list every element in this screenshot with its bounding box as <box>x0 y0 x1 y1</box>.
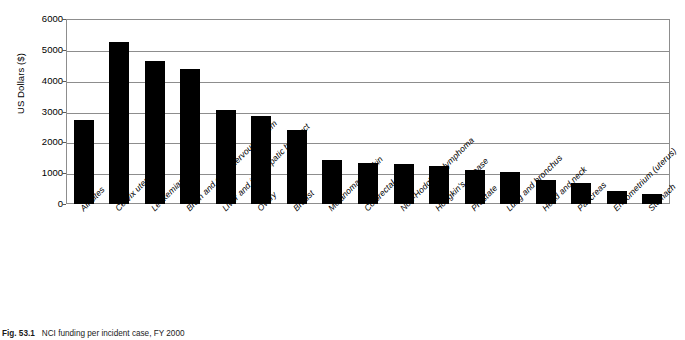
y-axis-tick-label: 6000 <box>3 14 63 24</box>
figure-caption: Fig. 53.1NCI funding per incident case, … <box>2 329 185 338</box>
figure-container: US Dollars ($) 0100020003000400050006000… <box>0 0 685 340</box>
figure-caption-text: NCI funding per incident case, FY 2000 <box>42 329 185 338</box>
y-axis-tick-label: 2000 <box>3 137 63 147</box>
figure-number: Fig. 53.1 <box>2 329 35 338</box>
y-axis-tick-label: 4000 <box>3 76 63 86</box>
y-axis-tick-label: 3000 <box>3 107 63 117</box>
x-axis-category-labels: All sitesCervix uteriLeukemiasBrain and … <box>66 206 670 326</box>
y-axis-tick-label: 5000 <box>3 45 63 55</box>
bar <box>109 42 129 204</box>
y-axis-tick-label: 1000 <box>3 168 63 178</box>
y-axis-tick-label: 0 <box>3 199 63 209</box>
y-axis-tick-mark <box>62 204 66 205</box>
